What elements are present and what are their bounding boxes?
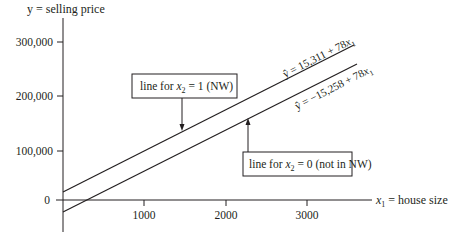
x-tick-label-1000: 1000 [133, 209, 156, 221]
x-tick-label-2000: 2000 [215, 209, 238, 221]
y-axis-label: y = selling price [27, 2, 105, 16]
x-axis-label: x1 = house size [375, 193, 448, 209]
arrowhead-not-nw-icon [246, 118, 251, 125]
y-tick-label-0: 0 [44, 194, 50, 206]
arrowhead-nw-icon [180, 124, 185, 131]
y-tick-label-100000: 100,000 [16, 145, 54, 158]
y-tick-label-300000: 300,000 [16, 36, 54, 49]
y-tick-label-200000: 200,000 [16, 90, 54, 103]
regression-chart: 300,000 200,000 100,000 0 1000 2000 3000… [0, 0, 452, 235]
x-tick-label-3000: 3000 [296, 209, 319, 221]
